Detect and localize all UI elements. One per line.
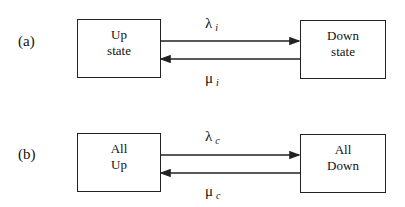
all-down-line1: All bbox=[301, 142, 385, 158]
all-up-line1: All bbox=[78, 141, 160, 157]
mu-symbol: μ bbox=[205, 70, 213, 86]
mu-subscript: c bbox=[216, 190, 220, 201]
up-state-line1: Up bbox=[78, 27, 160, 43]
mu-subscript: i bbox=[216, 77, 219, 88]
up-state-line2: state bbox=[78, 43, 160, 59]
failure-rate-label-a: λi bbox=[205, 15, 218, 33]
down-state-line2: state bbox=[301, 44, 385, 60]
all-up-box: All Up bbox=[77, 133, 161, 192]
lambda-subscript: c bbox=[215, 135, 219, 146]
lambda-subscript: i bbox=[215, 22, 218, 33]
lambda-symbol: λ bbox=[205, 15, 212, 31]
all-down-line2: Down bbox=[301, 158, 385, 174]
panel-label-b: (b) bbox=[18, 146, 36, 163]
repair-rate-label-b: μc bbox=[205, 183, 221, 201]
all-up-line2: Up bbox=[78, 157, 160, 173]
down-state-line1: Down bbox=[301, 28, 385, 44]
mu-symbol: μ bbox=[205, 183, 213, 199]
all-down-box: All Down bbox=[300, 134, 386, 193]
down-state-box: Down state bbox=[300, 20, 386, 79]
up-state-box: Up state bbox=[77, 19, 161, 78]
failure-rate-label-b: λc bbox=[205, 128, 220, 146]
lambda-symbol: λ bbox=[205, 128, 212, 144]
repair-rate-label-a: μi bbox=[205, 70, 219, 88]
panel-label-a: (a) bbox=[18, 33, 35, 50]
